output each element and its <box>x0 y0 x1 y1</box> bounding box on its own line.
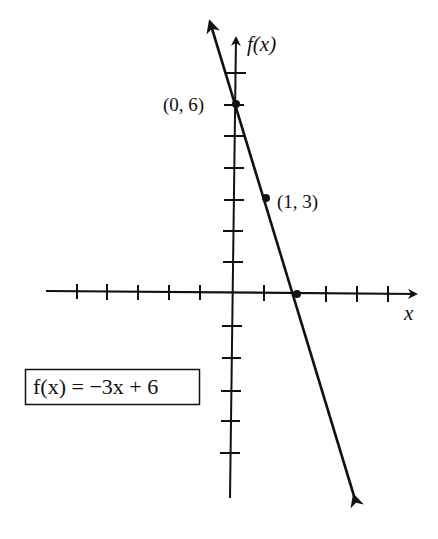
point-0-6 <box>232 100 240 108</box>
point-label-1-3: (1, 3) <box>277 191 318 213</box>
equation-label: f(x) = −3x + 6 <box>33 374 158 399</box>
y-axis <box>220 38 246 498</box>
x-axis <box>46 284 416 302</box>
point-label-0-6: (0, 6) <box>163 94 204 116</box>
point-1-3 <box>262 194 270 202</box>
x-axis-label: x <box>403 301 414 325</box>
equation-box: f(x) = −3x + 6 <box>26 370 200 405</box>
function-graph: f(x) x (0, 6) (1, 3) f(x) = −3x + 6 <box>0 0 438 539</box>
point-2-0 <box>293 290 301 298</box>
y-axis-label: f(x) <box>247 32 276 56</box>
